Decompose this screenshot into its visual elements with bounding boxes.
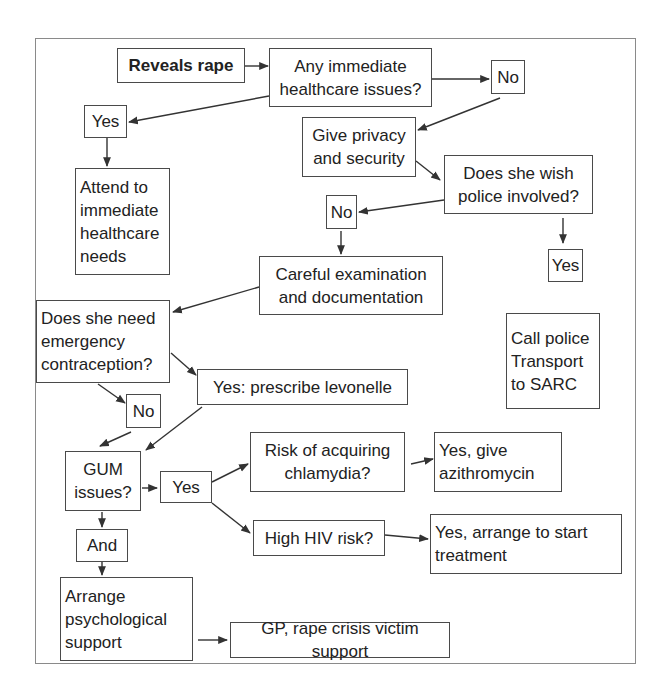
node-no-healthcare: No — [491, 60, 525, 94]
node-any-immediate-healthcare-issues: Any immediate healthcare issues? — [269, 48, 432, 107]
node-give-privacy: Give privacy and security — [302, 117, 416, 177]
node-psychological-support: Arrange psychological support — [60, 577, 193, 661]
node-yes-police: Yes — [548, 249, 583, 282]
node-careful-examination: Careful examination and documentation — [259, 256, 443, 315]
node-emergency-contraception: Does she need emergency contraception? — [36, 300, 170, 383]
node-attend-healthcare-needs: Attend to immediate healthcare needs — [75, 168, 170, 275]
node-yes-gum: Yes — [160, 471, 212, 503]
node-start-treatment: Yes, arrange to start treatment — [430, 514, 622, 574]
node-wish-police-involved: Does she wish police involved? — [444, 155, 593, 214]
node-call-police: Call police Transport to SARC — [506, 313, 600, 409]
node-prescribe-levonelle: Yes: prescribe levonelle — [197, 369, 408, 405]
node-yes-healthcare: Yes — [84, 105, 127, 138]
node-give-azithromycin: Yes, give azithromycin — [434, 432, 562, 492]
node-risk-chlamydia: Risk of acquiring chlamydia? — [250, 432, 405, 492]
node-high-hiv-risk: High HIV risk? — [253, 520, 385, 556]
node-no-police: No — [326, 195, 357, 229]
node-reveals-rape: Reveals rape — [117, 48, 245, 83]
node-no-contraception: No — [126, 394, 161, 428]
node-gp-rape-crisis-support: GP, rape crisis victim support — [230, 622, 450, 658]
node-gum-issues: GUM issues? — [65, 451, 141, 511]
node-and: And — [76, 529, 128, 562]
